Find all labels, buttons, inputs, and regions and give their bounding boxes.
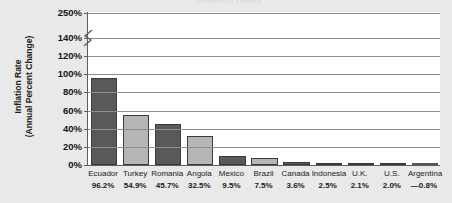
- bar-angola: [187, 136, 213, 165]
- y-axis-tick-mark: [84, 13, 88, 14]
- gridline: [88, 111, 440, 112]
- inflation-rate-bar-chart: Inflation Rates Inflation Rate (Annual P…: [0, 0, 452, 203]
- x-axis-category: Indonesia2.5%: [312, 168, 344, 191]
- bar-uk: [348, 163, 374, 165]
- x-axis-category: Romania45.7%: [151, 168, 183, 191]
- x-axis-category: Argentina—0.8%: [408, 168, 440, 191]
- x-axis-category: Ecuador96.2%: [87, 168, 119, 191]
- gridline: [88, 74, 440, 75]
- y-axis-tick-mark: [84, 147, 88, 148]
- category-value: 2.1%: [344, 180, 376, 191]
- category-value: 7.5%: [247, 180, 279, 191]
- gridline: [88, 38, 440, 39]
- axis-break-icon: [81, 30, 95, 46]
- category-value: 96.2%: [87, 180, 119, 191]
- gridline: [88, 129, 440, 130]
- bar-indonesia: [316, 163, 342, 165]
- y-axis-tick-mark: [84, 111, 88, 112]
- category-value: 9.5%: [215, 180, 247, 191]
- bar-romania: [155, 124, 181, 165]
- bar-argentina: [412, 163, 438, 165]
- gridline: [88, 92, 440, 93]
- y-axis-tick-mark: [84, 56, 88, 57]
- category-value: 54.9%: [119, 180, 151, 191]
- x-axis-category: Mexico9.5%: [215, 168, 247, 191]
- category-value: 3.6%: [280, 180, 312, 191]
- category-name: Romania: [151, 168, 183, 179]
- category-name: Canada: [280, 168, 312, 179]
- x-axis-category: Turkey54.9%: [119, 168, 151, 191]
- category-name: U.S.: [376, 168, 408, 179]
- y-axis-tick-mark: [84, 165, 88, 166]
- category-value: 2.5%: [312, 180, 344, 191]
- y-axis-tick-label: 100%: [22, 69, 82, 78]
- bar-brazil: [251, 158, 277, 165]
- bar-ecuador: [91, 78, 117, 165]
- plot-area: [87, 12, 440, 166]
- category-name: Brazil: [247, 168, 279, 179]
- y-axis-tick-label: 120%: [22, 51, 82, 60]
- category-value: 32.5%: [183, 180, 215, 191]
- x-axis-category: U.S.2.0%: [376, 168, 408, 191]
- y-axis-tick-label: 20%: [22, 142, 82, 151]
- x-axis-category: U.K.2.1%: [344, 168, 376, 191]
- category-value: 45.7%: [151, 180, 183, 191]
- y-axis-tick-label: 250%: [22, 8, 82, 17]
- gridline: [88, 13, 440, 14]
- x-axis-category-labels: Ecuador96.2%Turkey54.9%Romania45.7%Angol…: [87, 168, 440, 202]
- category-name: Ecuador: [87, 168, 119, 179]
- y-axis-tick-label: 0%: [22, 160, 82, 169]
- gridline: [88, 56, 440, 57]
- category-name: Argentina: [408, 168, 440, 179]
- y-axis-tick-label: 80%: [22, 87, 82, 96]
- y-axis-tick-mark: [84, 92, 88, 93]
- category-name: Turkey: [119, 168, 151, 179]
- category-name: Mexico: [215, 168, 247, 179]
- bar-turkey: [123, 115, 149, 165]
- bar-us: [380, 163, 406, 165]
- category-name: Angola: [183, 168, 215, 179]
- y-axis-tick-mark: [84, 129, 88, 130]
- bar-mexico: [219, 156, 245, 165]
- x-axis-category: Brazil7.5%: [247, 168, 279, 191]
- gridline: [88, 147, 440, 148]
- y-axis-tick-label: 140%: [22, 33, 82, 42]
- x-axis-category: Canada3.6%: [280, 168, 312, 191]
- y-axis-tick-mark: [84, 74, 88, 75]
- bar-canada: [283, 162, 309, 165]
- category-value: 2.0%: [376, 180, 408, 191]
- y-axis-tick-label: 40%: [22, 124, 82, 133]
- category-name: Indonesia: [312, 168, 344, 179]
- x-axis-category: Angola32.5%: [183, 168, 215, 191]
- category-name: U.K.: [344, 168, 376, 179]
- y-axis-tick-label: 60%: [22, 106, 82, 115]
- bar-series: [88, 12, 440, 165]
- category-value: —0.8%: [408, 180, 440, 191]
- chart-title-remnant: Inflation Rates: [104, 0, 354, 4]
